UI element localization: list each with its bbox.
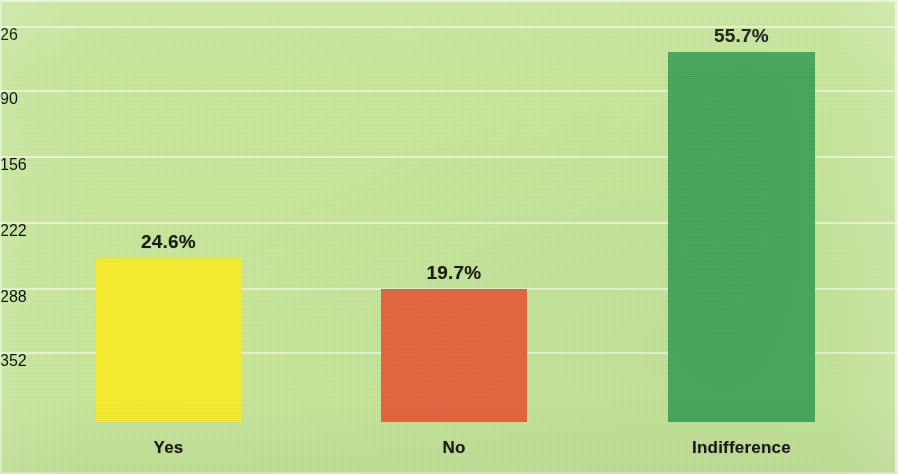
- bar-texture-overlay: [668, 52, 815, 422]
- value-label-yes: 24.6%: [96, 231, 241, 253]
- category-label-no: No: [341, 438, 567, 458]
- category-label-yes: Yes: [56, 438, 281, 458]
- category-label-indifference: Indifference: [628, 438, 855, 458]
- value-label-no: 19.7%: [381, 262, 527, 284]
- bar-indifference[interactable]: [668, 52, 815, 422]
- bar-yes[interactable]: [96, 258, 241, 422]
- bar-texture-overlay: [96, 258, 241, 422]
- bar-texture-overlay: [381, 289, 527, 422]
- value-label-indifference: 55.7%: [668, 25, 815, 47]
- bar-no[interactable]: [381, 289, 527, 422]
- bar-chart: 2690156222288352 24.6%Yes19.7%No55.7%Ind…: [0, 0, 898, 474]
